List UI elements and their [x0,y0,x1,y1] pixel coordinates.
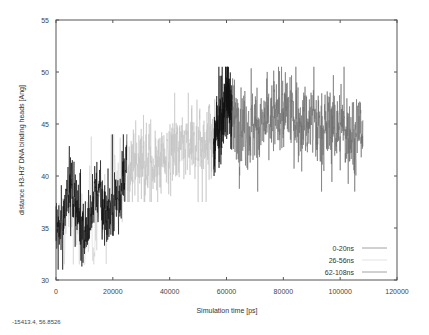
x-tick-label: 80000 [274,288,294,295]
x-tick-label: 0 [54,288,58,295]
series-trace-62-108ns [232,67,363,192]
x-tick-label: 100000 [328,288,351,295]
legend-label: 0-20ns [333,245,355,252]
x-axis-title: Simulation time [ps] [196,307,257,315]
y-tick-label: 50 [41,69,49,76]
line-chart: 020000400006000080000100000120000 303540… [0,0,429,335]
x-tick-label: 60000 [217,288,237,295]
x-tick-label: 40000 [160,288,180,295]
y-axis-title: distance H3-H3' DNA binding heads [Ang] [18,85,26,215]
legend-label: 26-56ns [329,257,355,264]
x-tick-label: 120000 [385,288,408,295]
y-tick-label: 55 [41,17,49,24]
cursor-coordinates: -15413.4, 56.8526 [12,319,61,325]
x-tick-label: 20000 [103,288,123,295]
legend-label: 62-108ns [325,269,355,276]
y-tick-label: 45 [41,121,49,128]
legend: 0-20ns26-56ns62-108ns [325,245,387,276]
y-tick-label: 30 [41,277,49,284]
plot-traces [56,67,363,270]
y-tick-label: 35 [41,225,49,232]
y-tick-label: 40 [41,173,49,180]
series-trace-26-56ns [127,93,215,202]
series-trace-overlay [214,67,232,168]
